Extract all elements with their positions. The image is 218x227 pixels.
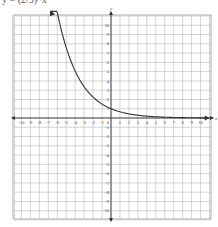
graph: xy -10-9-8-7-6-5-4-3-2-11234567891010987… (0, 0, 218, 227)
x-tick-label: 4 (146, 120, 149, 125)
plot-frame (14, 15, 211, 219)
y-tick-label: 2 (107, 97, 109, 102)
curve-line (51, 11, 208, 118)
curve-arrow-right (205, 115, 210, 120)
x-tick-label: 6 (164, 120, 167, 125)
x-tick-label: 10 (198, 120, 203, 125)
y-tick-label: -10 (103, 208, 110, 213)
x-tick-label: 3 (137, 120, 140, 125)
y-tick-label: -1 (105, 125, 109, 130)
x-tick-label: 7 (173, 120, 176, 125)
x-tick-label: -2 (91, 120, 95, 125)
x-tick-label: -5 (64, 120, 68, 125)
x-axis-label: x (214, 116, 218, 121)
x-tick-label: -6 (55, 120, 59, 125)
x-tick-label: 5 (155, 120, 158, 125)
curve-layer (50, 10, 210, 120)
x-tick-label: -10 (18, 120, 25, 125)
y-tick-label: 10 (105, 23, 110, 28)
x-tick-label: -7 (46, 120, 50, 125)
x-tick-label: 9 (190, 120, 193, 125)
y-tick-label: -2 (105, 134, 109, 139)
x-tick-label: -1 (100, 120, 104, 125)
x-tick-label: -9 (29, 120, 33, 125)
x-tick-label: 2 (128, 120, 130, 125)
x-tick-label: 1 (119, 120, 121, 125)
x-tick-label: -8 (37, 120, 41, 125)
axes: xy (11, 6, 218, 222)
x-axis-arrow-right (210, 116, 214, 120)
y-axis-label: y (109, 6, 113, 11)
x-tick-label: -3 (82, 120, 86, 125)
x-tick-label: 8 (182, 120, 185, 125)
origin-label: 0 (107, 120, 110, 125)
x-axis-arrow-left (11, 116, 15, 120)
y-axis-arrow-up (109, 11, 113, 15)
x-tick-label: -4 (73, 120, 77, 125)
